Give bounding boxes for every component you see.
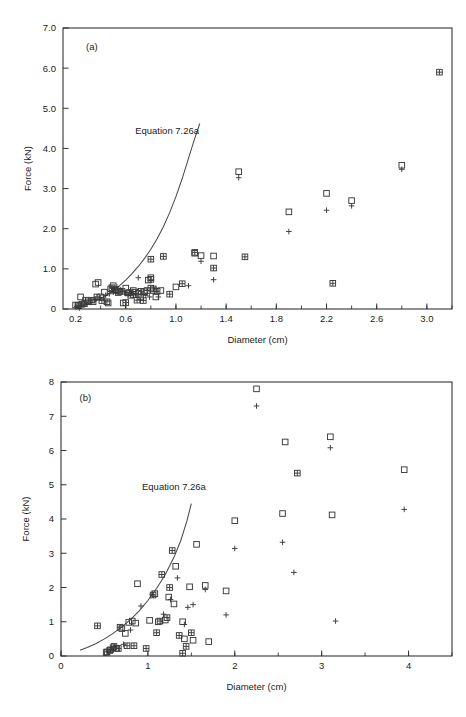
marker-square (211, 253, 217, 259)
y-tick-label: 8 (49, 376, 54, 387)
marker-square (329, 512, 335, 518)
marker-square (206, 639, 212, 645)
plot-annotation: Equation 7.26a (142, 481, 207, 492)
y-tick-label: 5 (49, 479, 54, 490)
marker-square (254, 386, 260, 392)
x-tick-label: 1 (145, 660, 150, 671)
x-tick-label: 2.6 (370, 313, 383, 324)
y-tick-label: 3.0 (43, 183, 56, 194)
series-square-plus (75, 69, 442, 308)
x-axis-title: Diameter (cm) (226, 681, 286, 692)
x-tick-label: 2 (232, 660, 237, 671)
x-tick-label: 0.6 (119, 313, 132, 324)
y-tick-label: 0 (49, 650, 54, 661)
series-square-plus (95, 470, 300, 656)
marker-square (194, 542, 200, 548)
x-tick-label: 1.0 (169, 313, 182, 324)
y-tick-label: 6.0 (43, 63, 56, 74)
marker-square (133, 620, 139, 626)
y-tick-label: 3 (49, 548, 54, 559)
marker-square (280, 511, 286, 517)
plot-annotation: Equation 7.26a (135, 125, 200, 136)
plot-annotation: (a) (86, 41, 98, 52)
x-tick-label: 1.4 (220, 313, 233, 324)
x-tick-label: 2.2 (320, 313, 333, 324)
y-tick-label: 0 (51, 303, 56, 314)
plot-annotation: (b) (80, 392, 92, 403)
x-tick-label: 3 (319, 660, 324, 671)
marker-square (171, 601, 177, 607)
chart-panel-a: 0.20.61.01.41.82.22.63.001.02.03.04.05.0… (0, 0, 466, 358)
chart-panel-b: 01234012345678(b)Equation 7.26aDiameter … (0, 358, 466, 717)
marker-square (349, 198, 355, 204)
y-tick-label: 2 (49, 582, 54, 593)
x-tick-label: 4 (406, 660, 411, 671)
marker-square (328, 434, 334, 440)
y-tick-label: 2.0 (43, 223, 56, 234)
marker-square (129, 618, 135, 624)
marker-square (232, 518, 238, 524)
y-tick-label: 5.0 (43, 103, 56, 114)
series-plus (105, 403, 407, 654)
y-tick-label: 4 (49, 513, 54, 524)
marker-square (173, 563, 179, 569)
equation-curve (76, 124, 200, 308)
marker-square (286, 209, 292, 215)
scatter-plot-a: 0.20.61.01.41.82.22.63.001.02.03.04.05.0… (0, 0, 466, 358)
y-axis-title: Force (kN) (22, 146, 33, 191)
y-tick-label: 7.0 (43, 22, 56, 33)
x-tick-label: 0.2 (69, 313, 82, 324)
marker-square (324, 191, 330, 197)
series-square (73, 162, 405, 308)
marker-square (147, 618, 153, 624)
plot-frame (61, 382, 452, 656)
x-axis-title: Diameter (cm) (227, 334, 287, 345)
marker-square (187, 584, 193, 590)
marker-square (282, 439, 288, 445)
marker-square (401, 467, 407, 473)
y-axis-title: Force (kN) (20, 497, 31, 542)
plot-frame (63, 28, 452, 309)
series-square (103, 386, 407, 655)
x-tick-label: 1.8 (270, 313, 283, 324)
y-tick-label: 1.0 (43, 263, 56, 274)
y-tick-label: 1 (49, 616, 54, 627)
marker-square (135, 581, 141, 587)
y-tick-label: 7 (49, 411, 54, 422)
scatter-plot-b: 01234012345678(b)Equation 7.26aDiameter … (0, 358, 466, 717)
y-tick-label: 4.0 (43, 143, 56, 154)
marker-square (198, 253, 204, 259)
x-tick-label: 0 (58, 660, 63, 671)
x-tick-label: 3.0 (420, 313, 433, 324)
y-tick-label: 6 (49, 445, 54, 456)
series-plus (74, 167, 405, 312)
marker-square (190, 637, 196, 643)
marker-square (173, 284, 179, 290)
marker-square (223, 588, 229, 594)
marker-square (236, 169, 242, 175)
